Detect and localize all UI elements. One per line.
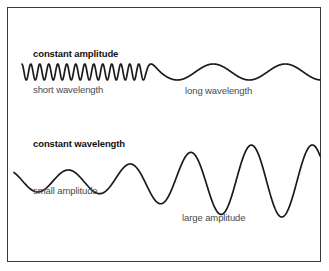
- wave-diagram: constant amplitude short wavelength long…: [0, 0, 329, 271]
- label-constant-amplitude: constant amplitude: [33, 49, 118, 59]
- label-large-amplitude: large amplitude: [182, 213, 245, 223]
- diagram-border: [7, 7, 321, 262]
- label-long-wavelength: long wavelength: [185, 86, 252, 96]
- label-small-amplitude: small amplitude: [33, 186, 98, 196]
- label-short-wavelength: short wavelength: [33, 85, 103, 95]
- label-constant-wavelength: constant wavelength: [33, 139, 125, 149]
